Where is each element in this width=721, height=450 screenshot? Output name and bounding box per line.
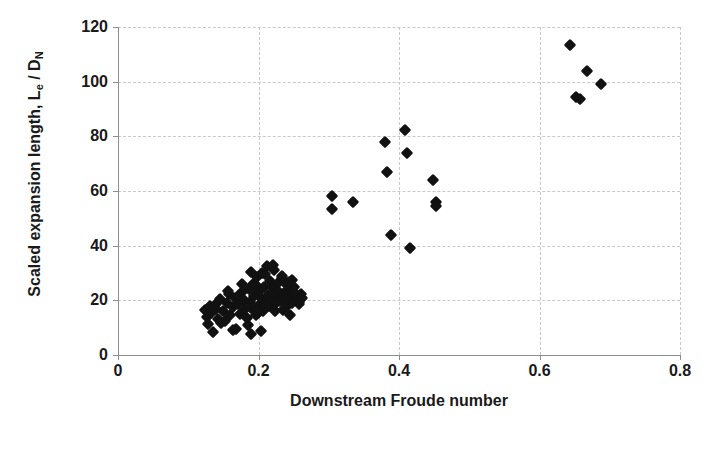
y-tick-label-2: 40 bbox=[90, 237, 108, 255]
y-tick-6 bbox=[113, 27, 118, 28]
gridline-x-0.8 bbox=[680, 27, 681, 355]
y-tick-5 bbox=[113, 82, 118, 83]
y-tick-0 bbox=[113, 355, 118, 356]
y-tick-label-0: 0 bbox=[99, 346, 108, 364]
y-axis-title-sub-n: N bbox=[33, 51, 45, 59]
plot-area bbox=[118, 27, 680, 355]
y-tick-label-1: 20 bbox=[90, 291, 108, 309]
gridline-x-0.4 bbox=[399, 27, 400, 355]
y-tick-3 bbox=[113, 191, 118, 192]
x-tick-0 bbox=[118, 355, 119, 360]
x-tick-label-3: 0.6 bbox=[528, 362, 550, 380]
gridline-x-0.6 bbox=[540, 27, 541, 355]
x-tick-label-4: 0.8 bbox=[669, 362, 691, 380]
y-tick-label-6: 120 bbox=[81, 18, 108, 36]
x-tick-label-2: 0.4 bbox=[388, 362, 410, 380]
x-tick-2 bbox=[399, 355, 400, 360]
y-axis-line bbox=[118, 27, 119, 355]
x-tick-label-0: 0 bbox=[114, 362, 123, 380]
y-tick-label-5: 100 bbox=[81, 73, 108, 91]
y-axis-title-sub-e: e bbox=[33, 84, 45, 90]
y-tick-label-3: 60 bbox=[90, 182, 108, 200]
chart-figure: 00.20.40.60.8 020406080100120 Downstream… bbox=[0, 0, 721, 450]
y-tick-label-4: 80 bbox=[90, 127, 108, 145]
y-axis-title-mid: / D bbox=[26, 59, 43, 84]
y-axis-title: Scaled expansion length, Le / DN bbox=[26, 9, 44, 339]
x-tick-4 bbox=[680, 355, 681, 360]
x-tick-3 bbox=[540, 355, 541, 360]
y-tick-1 bbox=[113, 300, 118, 301]
y-tick-2 bbox=[113, 246, 118, 247]
y-tick-4 bbox=[113, 136, 118, 137]
y-axis-title-prefix: Scaled expansion length, L bbox=[26, 90, 43, 296]
x-tick-label-1: 0.2 bbox=[247, 362, 269, 380]
x-axis-title: Downstream Froude number bbox=[118, 392, 680, 410]
y-axis-tick-labels: 020406080100120 bbox=[0, 0, 108, 450]
x-tick-1 bbox=[259, 355, 260, 360]
